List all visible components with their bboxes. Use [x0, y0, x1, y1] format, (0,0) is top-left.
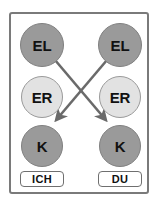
label-ich[interactable]: ICH — [20, 171, 64, 187]
node-el-left[interactable]: EL — [20, 23, 64, 67]
label-du[interactable]: DU — [98, 171, 142, 187]
node-k-left[interactable]: K — [21, 125, 63, 167]
node-er-left[interactable]: ER — [21, 76, 63, 118]
node-er-right[interactable]: ER — [99, 76, 141, 118]
diagram-canvas: EL ER K EL ER K ICH DU — [0, 0, 162, 209]
node-k-right[interactable]: K — [99, 125, 141, 167]
node-el-right[interactable]: EL — [98, 23, 142, 67]
